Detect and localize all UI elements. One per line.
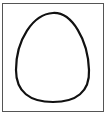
egg-outline-icon: [0, 0, 110, 115]
figure-canvas: [0, 0, 110, 115]
